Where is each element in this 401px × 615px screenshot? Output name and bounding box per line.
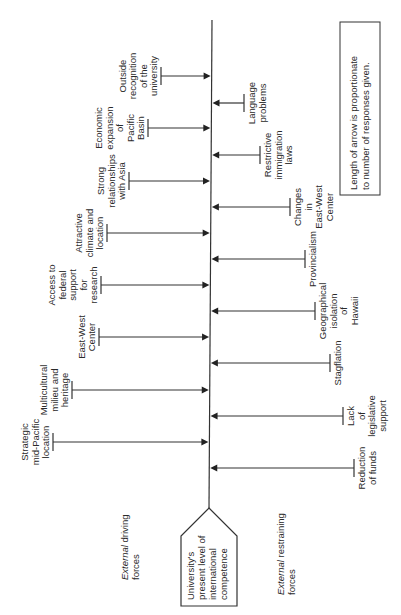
driving-force-label: support [67, 269, 78, 301]
driving-force-label: university [148, 56, 159, 96]
driving-force-label: Strong [95, 167, 106, 195]
arrowhead-right-icon [202, 387, 209, 394]
driving-force-label: Attractive [73, 213, 84, 253]
driving-force-label: Access to [46, 264, 57, 305]
svg-text:External restraining: External restraining [275, 513, 286, 595]
driving-force-label: Pacific [125, 114, 136, 142]
restraining-label-line2: forces [286, 569, 297, 595]
driving-force: Attractiveclimate andlocation [73, 209, 210, 258]
restraining-force: Reductionof funds [210, 447, 377, 490]
arrowhead-right-icon [203, 230, 210, 237]
driving-force: Access tofederalsupportforresearch [46, 264, 209, 305]
restraining-force-label: Hawaii [349, 297, 360, 326]
arrowhead-left-icon [212, 204, 219, 211]
restraining-force-label: of [356, 412, 367, 420]
restraining-force-label: Stagflation [332, 341, 343, 386]
arrowhead-right-icon [202, 334, 209, 341]
restraining-label-italic: External [275, 559, 286, 595]
driving-force: East-WestCenter [76, 315, 210, 359]
restraining-force-label: Lack [345, 406, 356, 426]
restraining-force: Restrictiveimmigrationlaws [212, 130, 294, 179]
driving-force-label: East-West [76, 315, 87, 359]
restraining-force-label: problems [257, 83, 268, 122]
arrowhead-left-icon [212, 100, 219, 107]
restraining-force-label: East-West [313, 185, 324, 229]
driving-force: Strategicmid-Pacificlocation [19, 419, 208, 466]
restraining-force: Provincialism [212, 231, 318, 287]
center-line-3: international [207, 548, 218, 600]
driving-label-rest: driving [119, 515, 130, 546]
restraining-force-label: Center [324, 193, 335, 222]
driving-force-label: milieu and [49, 368, 60, 411]
center-line-2: present level of [196, 535, 207, 600]
legend-line-2: to number of responses given. [360, 62, 371, 190]
driving-force-label: with Asia [116, 162, 127, 201]
restraining-force: GeographicalisolationofHawaii [211, 283, 359, 340]
restraining-force-label: Language [246, 82, 257, 124]
restraining-force-label: Restrictive [262, 133, 273, 177]
driving-force: Multiculturalmilieu andheritage [38, 365, 209, 416]
driving-force-label: Multicultural [38, 365, 49, 416]
driving-force-label: research [88, 267, 99, 304]
arrowhead-left-icon [211, 413, 218, 420]
restraining-force-label: in [303, 203, 314, 210]
driving-force-label: expansion [104, 106, 115, 149]
driving-force-label: federal [57, 270, 68, 299]
restraining-force-label: isolation [328, 294, 339, 329]
restraining-force-label: Changes [292, 188, 303, 226]
restraining-force-label: Provincialism [307, 231, 318, 287]
restraining-force: ChangesinEast-WestCenter [212, 185, 335, 229]
driving-force-label: Economic [93, 107, 104, 149]
legend-line-1: Length of arrow is proportionate [348, 56, 359, 190]
restraining-force: Lackoflegislativesupport [211, 395, 388, 437]
driving-force-label: climate and [84, 209, 95, 258]
driving-label-line2: forces [130, 554, 141, 580]
restraining-force-label: legislative [366, 395, 377, 437]
arrowhead-left-icon [211, 308, 218, 315]
center-line-1: University's [185, 551, 196, 600]
restraining-force-label: of funds [367, 451, 378, 485]
arrowhead-left-icon [212, 256, 219, 263]
restraining-forces-label: External restraining forces [275, 513, 297, 595]
driving-force-label: location [40, 426, 51, 459]
restraining-force: Languageproblems [212, 82, 267, 124]
driving-force-label: recognition [127, 53, 138, 99]
driving-force-label: Basin [135, 116, 146, 140]
driving-force-label: relationships [106, 154, 117, 208]
driving-force-label: heritage [59, 373, 70, 407]
restraining-force-label: Geographical [317, 283, 328, 340]
arrowhead-left-icon [210, 465, 217, 472]
restraining-force-label: Reduction [356, 447, 367, 490]
arrowhead-left-icon [211, 360, 218, 367]
svg-text:External driving: External driving [119, 515, 130, 580]
driving-force-label: location [94, 217, 105, 250]
driving-force: EconomicexpansionofPacificBasin [93, 106, 210, 149]
legend-box: Length of arrow is proportionate to numb… [340, 22, 380, 195]
restraining-label-rest: restraining [275, 513, 286, 560]
restraining-force-label: of [338, 307, 349, 315]
driving-forces-label: External driving forces [119, 515, 141, 580]
driving-forces: Outsiderecognitionof theuniversityEconom… [19, 53, 211, 465]
driving-force-label: Outside [117, 60, 128, 93]
restraining-force-label: immigration [273, 130, 284, 179]
arrowhead-left-icon [212, 152, 219, 159]
center-box: University's present level of internatio… [181, 508, 237, 606]
driving-force-label: Center [86, 323, 97, 352]
driving-force: Strongrelationshipswith Asia [95, 154, 210, 208]
arrowhead-right-icon [203, 125, 210, 132]
force-field-diagram: Length of arrow is proportionate to numb… [0, 0, 401, 615]
restraining-force: Stagflation [211, 341, 343, 386]
driving-force-label: of the [138, 64, 149, 88]
driving-force-label: mid-Pacific [30, 419, 41, 466]
arrowhead-right-icon [202, 282, 209, 289]
center-line-4: competence [218, 548, 229, 600]
driving-label-italic: External [119, 544, 130, 580]
driving-force-label: of [114, 124, 125, 132]
driving-force-label: Strategic [19, 423, 30, 461]
restraining-force-label: support [377, 400, 388, 432]
driving-force: Outsiderecognitionof theuniversity [117, 53, 211, 99]
arrowhead-right-icon [204, 73, 211, 80]
arrowhead-right-icon [203, 178, 210, 185]
restraining-force-label: laws [283, 145, 294, 164]
driving-force-label: for [78, 279, 89, 290]
